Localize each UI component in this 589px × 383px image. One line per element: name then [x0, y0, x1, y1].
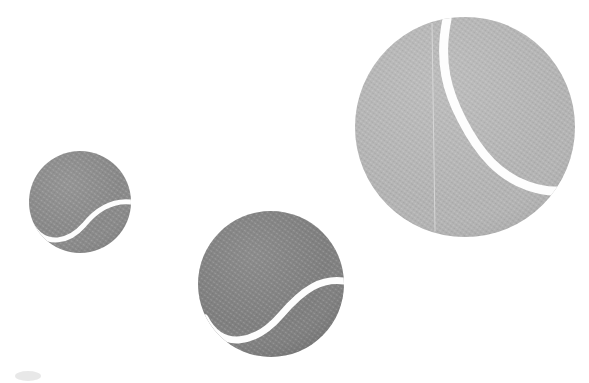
tennis-ball-scene	[0, 0, 589, 383]
scene-canvas	[0, 0, 589, 383]
ball-small	[29, 151, 131, 253]
ball-large	[355, 17, 575, 237]
corner-smudge	[15, 371, 41, 381]
ball-medium	[198, 211, 344, 357]
